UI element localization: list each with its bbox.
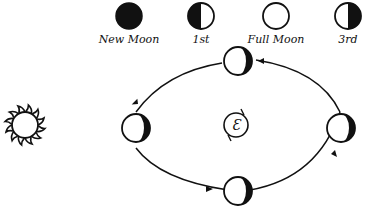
legend-label-full-moon: Full Moon: [241, 34, 311, 46]
sun-icon: [5, 105, 45, 145]
orbit-moon-left: [122, 114, 150, 142]
legend-label-first-quarter: 1st: [166, 34, 236, 46]
legend-label-third-quarter: 3rd: [313, 34, 367, 46]
first-quarter-icon: [188, 3, 214, 29]
legend-label-new-moon: New Moon: [94, 34, 164, 46]
full-moon-icon: [263, 3, 289, 29]
third-quarter-icon: [335, 3, 361, 29]
orbit-moon-top: [224, 47, 252, 75]
orbit-moon-right: [327, 114, 355, 142]
moon-phases-diagram: [0, 0, 367, 210]
orbit-moon-bottom: [224, 177, 252, 205]
new-moon-icon: [116, 3, 142, 29]
earth-symbol: Ɛ: [229, 116, 243, 134]
